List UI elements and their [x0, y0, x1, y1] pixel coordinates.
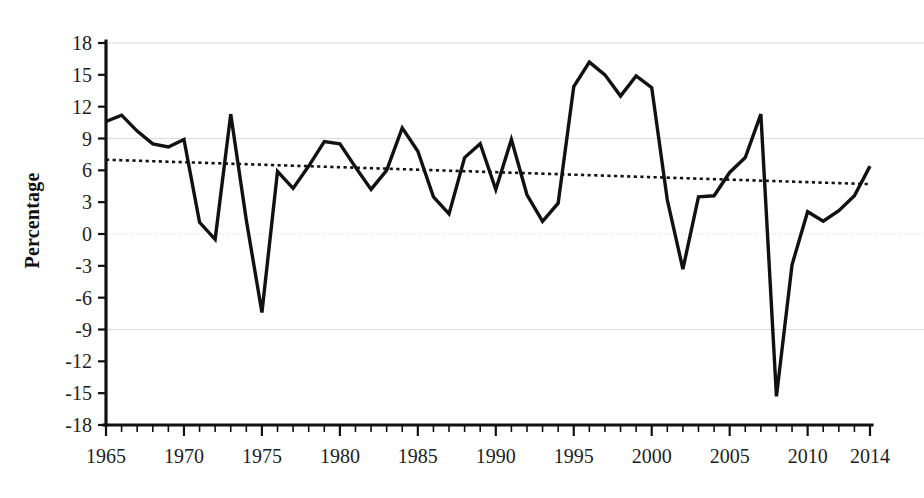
y-tick-label--15: -15	[65, 382, 92, 404]
x-tick-label-1965: 1965	[86, 445, 126, 467]
x-tick-label-1990: 1990	[476, 445, 516, 467]
x-tick-labels: 1965197019751980198519901995200020052010…	[86, 445, 890, 467]
x-tick-label-2005: 2005	[710, 445, 750, 467]
x-tick-label-1975: 1975	[242, 445, 282, 467]
y-tick-label-18: 18	[72, 32, 92, 54]
y-tick-label-15: 15	[72, 64, 92, 86]
line-chart-plot: 1815129630-3-6-9-12-15-18 19651970197519…	[0, 0, 924, 498]
data-series	[106, 62, 870, 396]
axis-lines	[104, 41, 872, 425]
y-tick-label-0: 0	[82, 223, 92, 245]
gridlines	[106, 43, 924, 330]
x-tick-label-1985: 1985	[398, 445, 438, 467]
y-tick-label-12: 12	[72, 96, 92, 118]
y-tick-label--3: -3	[75, 255, 92, 277]
y-tick-label--18: -18	[65, 414, 92, 436]
x-tick-label-2014: 2014	[850, 445, 890, 467]
x-tick-label-1970: 1970	[164, 445, 204, 467]
x-tick-label-1980: 1980	[320, 445, 360, 467]
y-tick-label--6: -6	[75, 287, 92, 309]
percentage-series	[106, 62, 870, 396]
x-tick-label-2010: 2010	[788, 445, 828, 467]
x-tick-label-1995: 1995	[554, 445, 594, 467]
y-tick-label--9: -9	[75, 319, 92, 341]
y-tick-label-6: 6	[82, 159, 92, 181]
y-tick-labels: 1815129630-3-6-9-12-15-18	[65, 32, 92, 436]
y-tick-label-3: 3	[82, 191, 92, 213]
x-tick-label-2000: 2000	[632, 445, 672, 467]
y-tick-label-9: 9	[82, 128, 92, 150]
chart-figure: Percentage 1815129630-3-6-9-12-15-18 196…	[0, 0, 924, 498]
y-tick-label--12: -12	[65, 350, 92, 372]
